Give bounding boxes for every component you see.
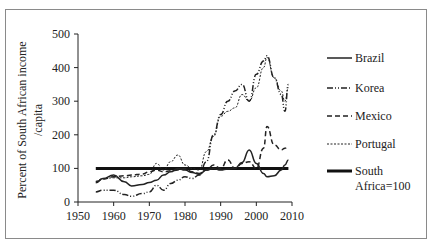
y-axis-ticks: 0100200300400500 xyxy=(52,27,78,209)
y-axis-title-line2: /capita xyxy=(31,103,45,136)
x-tick-label: 1990 xyxy=(209,209,233,223)
x-tick-label: 1960 xyxy=(102,209,126,223)
legend-item-mexico: Mexico xyxy=(327,109,392,123)
y-tick-label: 500 xyxy=(52,27,70,41)
series-line-korea xyxy=(96,56,289,197)
legend-label-line2: Africa=100 xyxy=(355,179,410,193)
series-line-mexico xyxy=(96,126,289,181)
x-tick-label: 2000 xyxy=(244,209,268,223)
legend-item-korea: Korea xyxy=(327,81,385,95)
y-axis-title: Percent of South African income /capita xyxy=(15,41,45,198)
y-tick-label: 400 xyxy=(52,61,70,75)
legend-item-brazil: Brazil xyxy=(327,51,385,65)
line-chart: Percent of South African income /capita … xyxy=(0,0,435,247)
legend-item-portugal: Portugal xyxy=(327,137,396,151)
y-tick-label: 300 xyxy=(52,94,70,108)
legend-label: Brazil xyxy=(355,51,385,65)
y-tick-label: 200 xyxy=(52,128,70,142)
x-axis-ticks: 1950196019701980199020002010 xyxy=(66,202,304,223)
y-tick-label: 100 xyxy=(52,161,70,175)
axes: 0100200300400500 19501960197019801990200… xyxy=(52,27,304,223)
x-tick-label: 1980 xyxy=(173,209,197,223)
legend-label: Portugal xyxy=(355,137,396,151)
legend-label: Korea xyxy=(355,81,385,95)
x-tick-label: 1970 xyxy=(137,209,161,223)
legend-label: Mexico xyxy=(355,109,392,123)
y-axis-title-line1: Percent of South African income xyxy=(15,41,29,198)
x-tick-label: 2010 xyxy=(280,209,304,223)
legend-label-line1: South xyxy=(355,164,383,178)
legend-item-south-africa: South Africa=100 xyxy=(327,164,410,193)
y-tick-label: 0 xyxy=(64,195,70,209)
series-group xyxy=(96,56,289,197)
x-tick-label: 1950 xyxy=(66,209,90,223)
legend: Brazil Korea Mexico Portugal South Afric… xyxy=(327,51,410,193)
